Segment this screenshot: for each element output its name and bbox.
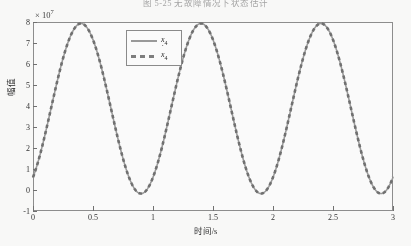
x-tick-label: 0 bbox=[31, 213, 35, 222]
y-tick-mark bbox=[33, 43, 37, 44]
legend-swatch-solid-icon bbox=[131, 40, 157, 42]
plot-curves bbox=[33, 22, 393, 211]
x-tick-mark bbox=[153, 206, 154, 211]
y-tick-label: 6 bbox=[0, 60, 30, 69]
y-axis-exponent-power: 7 bbox=[50, 8, 53, 15]
x-tick-label: 1.5 bbox=[208, 213, 218, 222]
x-tick-label: 0.5 bbox=[88, 213, 98, 222]
y-tick-label: 7 bbox=[0, 39, 30, 48]
y-tick-label: 3 bbox=[0, 123, 30, 132]
y-tick-mark bbox=[33, 22, 37, 23]
y-axis-exponent-label: × 107 bbox=[35, 8, 54, 20]
scanned-page: 图 5-25 无故障情况下状态估计 × 107 -1012345678 00.5… bbox=[0, 0, 411, 246]
x-tick-label: 3 bbox=[391, 213, 395, 222]
x-tick-mark bbox=[33, 206, 34, 211]
series-x4dot bbox=[33, 23, 393, 193]
y-tick-label: 2 bbox=[0, 144, 30, 153]
x-tick-mark bbox=[393, 206, 394, 211]
y-tick-mark bbox=[33, 106, 37, 107]
x-tick-mark bbox=[213, 206, 214, 211]
series-x4 bbox=[33, 23, 393, 193]
chart-figure: × 107 -1012345678 00.511.522.53 时间/s 幅值 … bbox=[0, 0, 411, 246]
x-tick-mark bbox=[273, 206, 274, 211]
y-tick-label: 0 bbox=[0, 186, 30, 195]
x-tick-mark bbox=[333, 206, 334, 211]
y-tick-mark bbox=[33, 211, 37, 212]
y-tick-label: 8 bbox=[0, 18, 30, 27]
x-axis-title: 时间/s bbox=[0, 224, 411, 236]
y-tick-mark bbox=[33, 190, 37, 191]
y-tick-label: 1 bbox=[0, 165, 30, 174]
y-tick-mark bbox=[33, 64, 37, 65]
x-tick-label: 2.5 bbox=[328, 213, 338, 222]
y-tick-label: 4 bbox=[0, 102, 30, 111]
y-tick-mark bbox=[33, 169, 37, 170]
y-tick-label: -1 bbox=[0, 207, 30, 216]
legend-label-x4dot: x4 bbox=[161, 51, 168, 61]
y-tick-mark bbox=[33, 148, 37, 149]
legend-entry-x4dot: x4 bbox=[131, 50, 168, 62]
x-tick-label: 1 bbox=[151, 213, 155, 222]
y-tick-mark bbox=[33, 85, 37, 86]
chart-legend: x4 x4 bbox=[126, 30, 182, 66]
legend-swatch-dashed-icon bbox=[131, 55, 157, 58]
x-tick-label: 2 bbox=[271, 213, 275, 222]
y-axis-exponent-prefix: × 10 bbox=[35, 10, 50, 20]
x-tick-mark bbox=[93, 206, 94, 211]
y-tick-mark bbox=[33, 127, 37, 128]
y-axis-title: 幅值 bbox=[4, 78, 16, 96]
